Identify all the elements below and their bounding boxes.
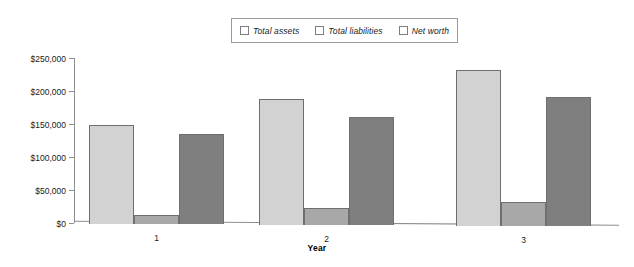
y-axis-tick-label: $200,000: [31, 87, 66, 97]
y-axis-tick-label: $50,000: [35, 186, 66, 196]
bar: [501, 202, 546, 226]
legend-label-total-assets: Total assets: [253, 26, 299, 36]
legend-swatch-net-worth: [399, 26, 408, 35]
bar-group: 2: [259, 60, 394, 225]
bar: [89, 125, 134, 224]
bar: [179, 134, 224, 223]
legend-item-total-liabilities: Total liabilities: [315, 26, 382, 36]
bar: [304, 208, 349, 225]
bar-group: 3: [456, 61, 591, 226]
x-axis-tick-label: 1: [154, 233, 159, 243]
x-axis-title: Year: [0, 243, 634, 253]
bar-groups: 123: [74, 58, 610, 223]
legend-swatch-total-liabilities: [315, 26, 324, 35]
bar-chart: Total assets Total liabilities Net worth…: [0, 0, 634, 267]
bar: [456, 70, 501, 226]
bar: [546, 97, 591, 226]
y-axis-tick-label: $150,000: [31, 120, 66, 130]
legend-item-total-assets: Total assets: [240, 26, 299, 36]
legend-swatch-total-assets: [240, 26, 249, 35]
bar: [349, 117, 394, 225]
y-axis-tick-label: $0: [57, 219, 66, 229]
legend-label-total-liabilities: Total liabilities: [328, 26, 382, 36]
legend-label-net-worth: Net worth: [412, 26, 449, 36]
bar: [259, 99, 304, 224]
plot-area: $250,000$200,000$150,000$100,000$50,000$…: [74, 58, 610, 223]
y-axis-tick-label: $250,000: [31, 54, 66, 64]
chart-legend: Total assets Total liabilities Net worth: [231, 18, 458, 43]
legend-item-net-worth: Net worth: [399, 26, 449, 36]
bar: [134, 215, 179, 224]
bar-group: 1: [89, 59, 224, 224]
y-axis-tick-label: $100,000: [31, 153, 66, 163]
